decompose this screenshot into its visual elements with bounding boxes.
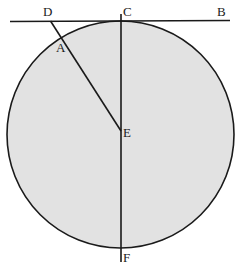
- geometry-canvas: [0, 0, 236, 276]
- vertex-label-B: B: [217, 5, 226, 18]
- geometry-diagram: D C B A E F: [0, 0, 236, 276]
- vertex-label-D: D: [43, 5, 52, 18]
- vertex-label-F: F: [123, 251, 130, 264]
- vertex-label-E: E: [123, 126, 131, 139]
- vertex-label-A: A: [56, 41, 65, 54]
- vertex-label-C: C: [123, 5, 132, 18]
- tangent-line-DCB: [10, 21, 230, 22]
